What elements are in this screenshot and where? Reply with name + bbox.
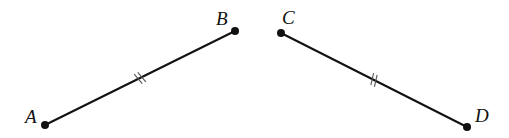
point-label-b: B (216, 8, 228, 29)
segment-ab (45, 31, 235, 125)
point-label-a: A (23, 106, 37, 127)
point-a (41, 121, 49, 129)
segment-cd (281, 33, 467, 127)
point-b (231, 27, 239, 35)
point-label-d: D (474, 105, 489, 126)
point-c (277, 29, 285, 37)
congruent-segments-diagram: A B C D (0, 0, 509, 138)
point-label-c: C (282, 7, 295, 28)
point-d (463, 123, 471, 131)
